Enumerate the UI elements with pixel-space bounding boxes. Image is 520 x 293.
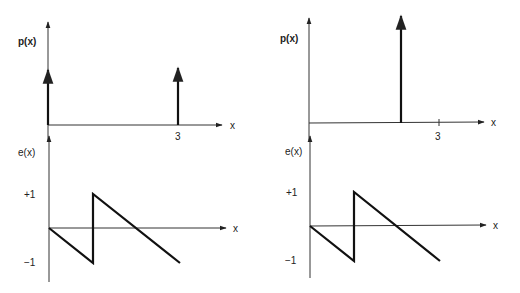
- y-axis-label: p(x): [280, 33, 298, 44]
- y-axis-label: e(x): [18, 147, 35, 158]
- y-axis-label: e(x): [285, 146, 302, 157]
- x-axis-label: x: [493, 220, 498, 231]
- tick-label-minus1: −1: [24, 257, 36, 268]
- tick-label-3: 3: [435, 131, 441, 142]
- tick-label-3: 3: [175, 131, 181, 142]
- right-error-plot: e(x) x +1 −1: [285, 136, 498, 278]
- x-axis: [310, 225, 486, 226]
- left-pmf-plot: p(x) x 3: [18, 22, 235, 142]
- left-error-plot: e(x) x +1 −1: [18, 136, 238, 282]
- sawtooth-curve: [310, 192, 440, 261]
- tick-label-minus1: −1: [285, 255, 297, 266]
- right-panel: p(x) x 3 e(x) x +1 −1: [280, 16, 498, 278]
- tick-label-plus1: +1: [286, 187, 298, 198]
- x-axis-label: x: [491, 117, 496, 128]
- tick-label-plus1: +1: [24, 189, 36, 200]
- y-axis-label: p(x): [18, 36, 36, 47]
- right-pmf-plot: p(x) x 3: [280, 16, 496, 142]
- x-axis-label: x: [233, 223, 238, 234]
- figure: p(x) x 3 e(x) x +1 −1 p(x) x 3: [0, 0, 520, 293]
- left-panel: p(x) x 3 e(x) x +1 −1: [18, 22, 238, 282]
- x-axis: [309, 122, 484, 123]
- x-axis-label: x: [230, 120, 235, 131]
